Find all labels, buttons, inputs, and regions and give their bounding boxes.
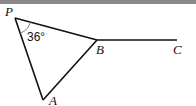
geometry-diagram: P 36° B C A bbox=[0, 0, 196, 106]
label-p: P bbox=[4, 4, 13, 19]
segment-ab bbox=[43, 40, 97, 100]
label-c: C bbox=[173, 42, 182, 57]
label-b: B bbox=[96, 42, 104, 57]
angle-label-p: 36° bbox=[27, 30, 45, 44]
label-a: A bbox=[48, 93, 57, 106]
